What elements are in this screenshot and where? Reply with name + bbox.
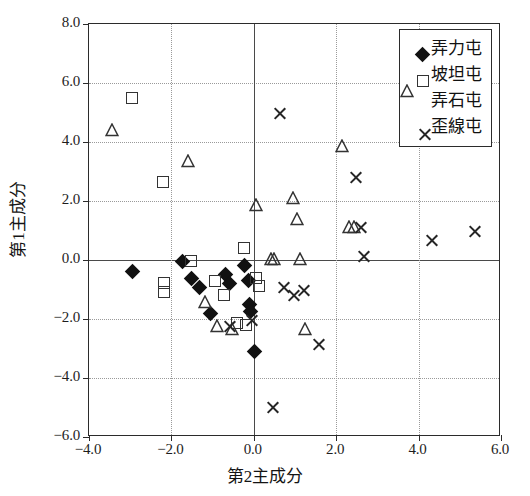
- marker-triangle-icon: [293, 252, 307, 266]
- x-tick-label: −2.0: [140, 441, 200, 458]
- legend: 弄力屯坡坦屯弄石屯歪線屯: [399, 29, 492, 147]
- marker-cross-icon: [272, 107, 286, 121]
- marker-square-icon: [218, 289, 230, 301]
- x-tick-label: −4.0: [58, 441, 118, 458]
- marker-square-icon: [417, 75, 429, 87]
- y-tick-label: 2.0: [22, 191, 80, 208]
- y-tick-label: 8.0: [22, 14, 80, 31]
- tick-mark-y: [83, 201, 89, 202]
- marker-diamond-icon: [124, 264, 140, 280]
- legend-marker: [407, 65, 427, 85]
- marker-cross-icon: [467, 225, 481, 239]
- tick-mark-y: [83, 260, 89, 261]
- marker-cross-icon: [311, 337, 325, 351]
- marker-triangle-icon: [181, 154, 195, 168]
- marker-triangle-icon: [400, 84, 414, 98]
- tick-mark-y: [83, 142, 89, 143]
- marker-cross-icon: [353, 221, 367, 235]
- x-zero-axis-line: [254, 24, 255, 435]
- marker-triangle-icon: [290, 212, 304, 226]
- marker-square-icon: [157, 176, 169, 188]
- legend-label: 歪線屯: [431, 117, 482, 137]
- legend-item: 弄力屯: [407, 36, 482, 62]
- gridline-vertical: [336, 24, 337, 435]
- y-tick-label: 4.0: [22, 132, 80, 149]
- x-tick-label: 4.0: [388, 441, 448, 458]
- marker-triangle-icon: [335, 139, 349, 153]
- tick-mark-y: [83, 378, 89, 379]
- marker-triangle-icon: [249, 198, 263, 212]
- marker-square-icon: [126, 92, 138, 104]
- tick-mark-y: [83, 319, 89, 320]
- y-tick-label: 0.0: [22, 250, 80, 267]
- marker-triangle-icon: [105, 123, 119, 137]
- legend-item: 弄石屯: [407, 88, 482, 114]
- marker-cross-icon: [417, 127, 431, 141]
- marker-square-icon: [238, 242, 250, 254]
- legend-label: 坡坦屯: [431, 65, 482, 85]
- marker-square-icon: [253, 280, 265, 292]
- marker-cross-icon: [348, 170, 362, 184]
- marker-cross-icon: [296, 283, 310, 297]
- x-axis-title: 第2主成分: [0, 462, 530, 487]
- tick-mark-y: [83, 24, 89, 25]
- legend-label: 弄石屯: [431, 91, 482, 111]
- scatter-plot-figure: 第1主成分 第2主成分 8.06.04.02.00.0−2.0−4.0−6.0 …: [0, 0, 530, 496]
- marker-square-icon: [209, 275, 221, 287]
- legend-label: 弄力屯: [431, 39, 482, 59]
- legend-marker: [407, 39, 427, 59]
- x-tick-label: 6.0: [470, 441, 530, 458]
- marker-square-icon: [158, 286, 170, 298]
- y-tick-label: −4.0: [22, 368, 80, 385]
- y-tick-label: 6.0: [22, 73, 80, 90]
- x-tick-label: 2.0: [305, 441, 365, 458]
- marker-triangle-icon: [286, 191, 300, 205]
- marker-cross-icon: [424, 234, 438, 248]
- x-tick-label: 0.0: [223, 441, 283, 458]
- marker-square-icon: [185, 255, 197, 267]
- legend-item: 坡坦屯: [407, 62, 482, 88]
- gridline-horizontal: [89, 378, 499, 379]
- legend-item: 歪線屯: [407, 114, 482, 140]
- marker-cross-icon: [265, 401, 279, 415]
- legend-marker: [407, 91, 427, 111]
- y-tick-label: −2.0: [22, 309, 80, 326]
- tick-mark-y: [83, 83, 89, 84]
- legend-marker: [407, 117, 427, 137]
- marker-triangle-icon: [298, 322, 312, 336]
- marker-diamond-icon: [415, 47, 431, 63]
- marker-diamond-icon: [247, 344, 263, 360]
- gridline-horizontal: [89, 319, 499, 320]
- marker-cross-icon: [356, 249, 370, 263]
- marker-cross-icon: [222, 319, 236, 333]
- y-axis-title: 第1主成分: [4, 120, 29, 320]
- marker-triangle-icon: [198, 295, 212, 309]
- marker-triangle-icon: [267, 252, 281, 266]
- gridline-vertical: [171, 24, 172, 435]
- marker-cross-icon: [244, 313, 258, 327]
